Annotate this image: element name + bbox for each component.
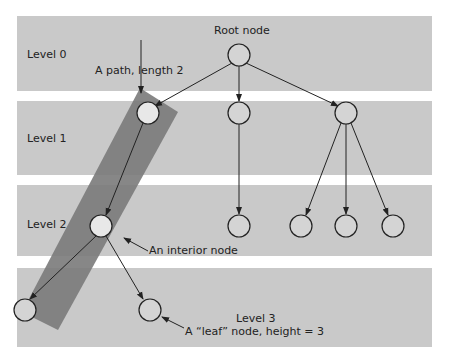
leaf-node-label: A “leaf” node, height = 3 — [185, 325, 324, 338]
node-l2-e — [382, 215, 404, 237]
node-root — [228, 44, 250, 66]
node-l2-interior — [90, 215, 112, 237]
node-l1-a — [137, 102, 159, 124]
root-node-label: Root node — [214, 24, 270, 37]
interior-node-label: An interior node — [149, 244, 238, 257]
tree-edges — [30, 40, 388, 328]
level-1-label: Level 1 — [27, 132, 67, 145]
node-l3-a — [14, 299, 36, 321]
node-l2-d — [335, 215, 357, 237]
path-label: A path, length 2 — [95, 64, 184, 77]
node-l1-b — [228, 102, 250, 124]
node-l2-c — [290, 215, 312, 237]
level-2-label: Level 2 — [27, 218, 67, 231]
level-0-label: Level 0 — [27, 48, 67, 61]
node-l1-c — [335, 102, 357, 124]
level-3-label: Level 3 — [236, 312, 276, 325]
node-l3-leaf — [139, 299, 161, 321]
tree-diagram — [0, 0, 449, 363]
node-l2-b — [228, 215, 250, 237]
path-highlight — [22, 88, 178, 330]
